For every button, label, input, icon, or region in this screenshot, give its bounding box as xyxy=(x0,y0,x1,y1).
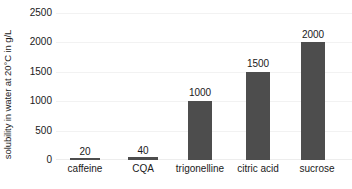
bar-sucrose xyxy=(301,42,325,160)
gridline-2500 xyxy=(56,13,352,14)
bar-value-caffeine: 20 xyxy=(65,146,105,157)
bar-value-trigonelline: 1000 xyxy=(180,87,220,98)
bar-value-cqa: 40 xyxy=(123,145,163,156)
y-tick-label-1000: 1000 xyxy=(14,96,52,106)
bar-citric-acid xyxy=(246,72,270,160)
y-tick-label-1500: 1500 xyxy=(14,67,52,77)
bar-caffeine xyxy=(70,158,100,160)
y-tick-label-0: 0 xyxy=(14,155,52,165)
bar-chart: solubility in water at 20°C in g/L 0 500… xyxy=(0,0,352,189)
x-tick-label-cqa: CQA xyxy=(113,163,173,175)
y-axis-title: solubility in water at 20°C in g/L xyxy=(0,0,14,189)
bar-trigonelline xyxy=(188,101,212,160)
x-tick-label-trigonelline: trigonelline xyxy=(165,163,235,175)
y-tick-label-2000: 2000 xyxy=(14,37,52,47)
y-axis-tick-labels: 0 500 1000 1500 2000 2500 xyxy=(14,0,52,189)
x-tick-label-caffeine: caffeine xyxy=(55,163,115,175)
bar-value-citric-acid: 1500 xyxy=(238,58,278,69)
bar-value-sucrose: 2000 xyxy=(293,29,333,40)
x-tick-label-citric-acid: citric acid xyxy=(227,163,289,175)
plot-area: 20 40 1000 1500 2000 xyxy=(56,13,352,160)
bar-cqa xyxy=(128,157,158,160)
x-tick-label-sucrose: sucrose xyxy=(286,163,348,175)
x-axis-tick-labels: caffeine CQA trigonelline citric acid su… xyxy=(56,163,352,185)
y-tick-label-2500: 2500 xyxy=(14,8,52,18)
y-tick-label-500: 500 xyxy=(14,126,52,136)
